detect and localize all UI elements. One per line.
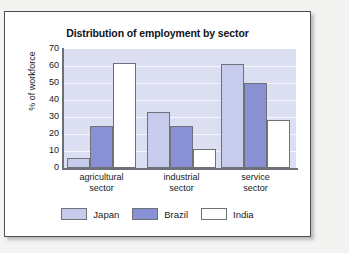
bar-group [221,49,290,168]
chart-title: Distribution of employment by sector [5,27,310,39]
y-tick-label: 30 [35,112,59,121]
scanned-page-background: Distribution of employment by sector 706… [0,0,349,253]
y-tick-label: 10 [35,146,59,155]
bar-brazil-industrial [170,126,193,169]
y-axis-tick-labels: 706050403020100 [35,48,59,169]
bar-group [67,49,136,168]
legend-item-japan: Japan [61,208,119,220]
x-category-label: servicesector [205,172,306,194]
bar-brazil-agricultural [90,126,113,169]
bar-india-industrial [193,149,216,168]
x-axis-category-labels: agriculturalsectorindustrialsectorservic… [63,172,296,204]
bar-japan-agricultural [67,158,90,168]
legend-swatch-japan [61,208,87,220]
bar-japan-service [221,64,244,168]
x-axis-line [62,168,298,170]
y-tick-label: 0 [35,163,59,172]
legend-swatch-india [201,208,227,220]
y-tick-label: 50 [35,78,59,87]
legend-item-brazil: Brazil [132,208,188,220]
y-tick-label: 20 [35,129,59,138]
figure-frame: Distribution of employment by sector 706… [4,11,311,237]
bar-brazil-service [244,83,267,168]
bar-group [147,49,216,168]
bar-japan-industrial [147,112,170,168]
bar-india-agricultural [113,63,136,168]
y-tick-label: 60 [35,61,59,70]
chart-legend: JapanBrazilIndia [5,208,310,220]
bar-india-service [267,120,290,168]
legend-swatch-brazil [132,208,158,220]
legend-item-india: India [201,208,254,220]
y-tick-label: 70 [35,44,59,53]
legend-label: Japan [93,209,119,220]
y-axis-title: % of workforce [27,26,37,136]
legend-label: India [233,209,254,220]
y-tick-label: 40 [35,95,59,104]
legend-label: Brazil [164,209,188,220]
bars-layer [63,49,296,168]
